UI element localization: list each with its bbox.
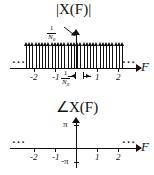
impulse-stem — [96, 46, 97, 68]
impulse-stem — [87, 46, 88, 68]
spacing-arrow-head-right — [86, 74, 90, 78]
impulse-stem — [42, 46, 43, 68]
impulse-stem — [112, 46, 113, 68]
phase-point — [43, 148, 45, 150]
spectrum-figure: |X(F)| 1 N0 ··· ··· F -2 -1 1 2 1 N0 ∠ — [0, 0, 154, 175]
impulse-stem — [93, 46, 94, 68]
impulse-stem — [32, 46, 33, 68]
magnitude-ticklabel-pos2: 2 — [116, 72, 121, 82]
impulse-stem — [100, 46, 101, 68]
impulse-stem — [55, 46, 56, 68]
impulse-stem — [52, 46, 53, 68]
phase-point — [31, 148, 33, 150]
phase-point — [61, 148, 63, 150]
phase-left-ellipsis: ··· — [12, 136, 26, 148]
impulse-arrowhead — [120, 42, 124, 46]
phase-x-axis-label: F — [141, 140, 149, 153]
phase-point — [52, 148, 54, 150]
impulse-stem — [80, 46, 81, 68]
impulse-stem — [77, 46, 78, 68]
magnitude-left-ellipsis: ··· — [12, 56, 26, 68]
impulse-stem — [61, 46, 62, 68]
magnitude-right-ellipsis: ··· — [122, 56, 136, 68]
phase-point — [73, 148, 75, 150]
phase-tick-negpi — [74, 162, 79, 163]
amplitude-numerator: 1 — [47, 25, 56, 32]
phase-plot-title: ∠X(F) — [56, 100, 98, 115]
phase-ticklabel-pi: π — [63, 120, 68, 129]
impulse-stem — [74, 46, 75, 68]
spacing-denominator: N0 — [61, 79, 70, 87]
phase-point — [46, 148, 48, 150]
phase-point — [100, 148, 102, 150]
impulse-stem — [36, 46, 37, 68]
impulse-stem — [29, 46, 30, 68]
impulse-stem — [119, 46, 120, 68]
phase-point — [40, 148, 42, 150]
impulse-stem — [106, 46, 107, 68]
impulse-stem — [48, 46, 49, 68]
spacing-arrow-head-left — [71, 74, 75, 78]
phase-point — [79, 148, 81, 150]
phase-point — [85, 148, 87, 150]
impulse-stem — [103, 46, 104, 68]
phase-point — [94, 148, 96, 150]
magnitude-ticklabel-neg2: -2 — [30, 72, 38, 82]
spacing-fraction-label: 1 N0 — [61, 70, 70, 87]
impulse-stem — [58, 46, 59, 68]
phase-point — [88, 148, 90, 150]
impulse-stem — [39, 46, 40, 68]
phase-tick-pi — [74, 125, 79, 126]
magnitude-x-axis-label: F — [141, 60, 149, 73]
impulse-stem — [64, 46, 65, 68]
phase-point — [28, 148, 30, 150]
phase-ticklabel-neg1: -1 — [52, 152, 60, 162]
phase-vertical-axis-arrow — [72, 117, 80, 123]
phase-point — [91, 148, 93, 150]
spacing-bar-left — [75, 72, 76, 79]
impulse-stem — [26, 46, 27, 68]
phase-point — [58, 148, 60, 150]
phase-point — [64, 148, 66, 150]
impulse-stem — [84, 46, 85, 68]
phase-ticklabel-pos1: 1 — [95, 152, 100, 162]
phase-ticklabel-pos2: 2 — [116, 152, 121, 162]
impulse-stem — [68, 46, 69, 68]
impulse-stem — [45, 46, 46, 68]
phase-point — [70, 148, 72, 150]
amplitude-pointer-arrow — [64, 27, 76, 36]
amplitude-fraction-label: 1 N0 — [47, 25, 56, 42]
phase-ticklabel-negpi: -π — [61, 157, 69, 166]
phase-point — [112, 148, 114, 150]
phase-point — [76, 148, 78, 150]
impulse-stem — [90, 46, 91, 68]
phase-point — [106, 148, 108, 150]
phase-point — [103, 148, 105, 150]
phase-ticklabel-neg2: -2 — [30, 152, 38, 162]
phase-point — [49, 148, 51, 150]
phase-point — [109, 148, 111, 150]
magnitude-plot-title: |X(F)| — [56, 2, 91, 17]
phase-right-ellipsis: ··· — [122, 136, 136, 148]
impulse-stem — [109, 46, 110, 68]
phase-point — [82, 148, 84, 150]
phase-point — [115, 148, 117, 150]
phase-point — [37, 148, 39, 150]
phase-point — [67, 148, 69, 150]
impulse-stem — [116, 46, 117, 68]
impulse-stem — [71, 46, 72, 68]
magnitude-ticklabel-neg1: -1 — [52, 72, 60, 82]
magnitude-ticklabel-pos1: 1 — [95, 72, 100, 82]
